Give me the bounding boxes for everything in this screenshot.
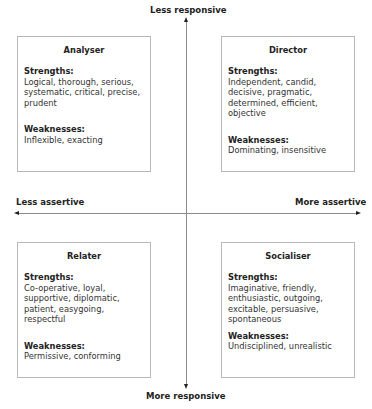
arrow-down-icon <box>184 384 188 389</box>
quadrant-analyser: Analyser Strengths: Logical, thorough, s… <box>17 36 151 172</box>
arrow-up-icon <box>184 17 188 22</box>
weaknesses-label: Weaknesses: <box>228 331 348 342</box>
strengths-label: Strengths: <box>228 66 348 77</box>
quadrant-title: Relater <box>24 251 144 261</box>
quadrant-relater: Relater Strengths: Co-operative, loyal, … <box>17 242 151 378</box>
weaknesses-label: Weaknesses: <box>24 341 144 352</box>
quadrant-director: Director Strengths: Independent, candid,… <box>221 36 355 172</box>
quadrant-title: Analyser <box>24 45 144 55</box>
quadrant-title: Director <box>228 45 348 55</box>
quadrant-title: Socialiser <box>228 251 348 261</box>
axis-label-right: More assertive <box>295 197 366 207</box>
axis-label-bottom: More responsive <box>146 391 225 401</box>
strengths-text: Logical, thorough, serious, systematic, … <box>24 77 144 109</box>
weaknesses-label: Weaknesses: <box>228 135 348 146</box>
weaknesses-text: Inflexible, exacting <box>24 135 144 146</box>
weaknesses-label: Weaknesses: <box>24 124 144 135</box>
weaknesses-text: Permissive, conforming <box>24 351 144 362</box>
strengths-text: Co-operative, loyal, supportive, diploma… <box>24 283 144 325</box>
weaknesses-text: Undisciplined, unrealistic <box>228 341 348 352</box>
arrow-left-icon <box>14 211 19 215</box>
strengths-text: Imaginative, friendly, enthusiastic, out… <box>228 283 348 325</box>
quadrant-socialiser: Socialiser Strengths: Imaginative, frien… <box>221 242 355 378</box>
strengths-label: Strengths: <box>24 66 144 77</box>
arrow-right-icon <box>356 211 361 215</box>
strengths-label: Strengths: <box>228 272 348 283</box>
axis-label-left: Less assertive <box>16 197 84 207</box>
axis-label-top: Less responsive <box>150 5 227 15</box>
horizontal-axis <box>17 213 358 214</box>
strengths-text: Independent, candid, decisive, pragmatic… <box>228 77 348 119</box>
vertical-axis <box>186 21 187 385</box>
weaknesses-text: Dominating, insensitive <box>228 145 348 156</box>
strengths-label: Strengths: <box>24 272 144 283</box>
